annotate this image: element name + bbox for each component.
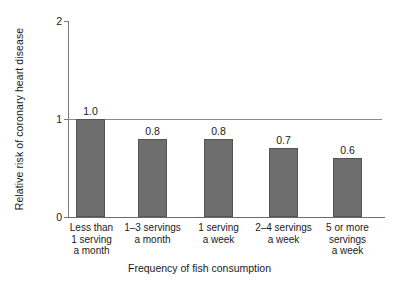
bar-value-label: 0.8 [211,125,226,137]
category-label-4: 5 or more servings a week [306,222,389,257]
y-tick-mark [64,119,68,120]
bar-value-label: 0.8 [145,125,160,137]
bar-1-serving-a-week: 0.8 [204,139,233,217]
y-axis-title: Relative risk of coronary heart disease [10,9,28,229]
bar-5-or-more-servings-a-week: 0.6 [333,158,362,217]
y-tick-label: 1 [56,113,62,125]
chart-figure: Relative risk of coronary heart disease … [0,0,399,284]
reference-line-at-one [68,119,382,120]
category-label-line: servings [306,234,389,246]
bar-less-than-1-serving-a-month: 1.0 [76,119,105,217]
bar-value-label: 0.7 [276,134,291,146]
bar-1-3-servings-a-month: 0.8 [138,139,167,217]
y-tick-label: 2 [56,15,62,27]
bar-2-4-servings-a-week: 0.7 [269,148,298,217]
y-tick-mark [64,21,68,22]
x-axis-line [68,217,385,218]
category-label-line: a month [50,245,133,257]
category-label-line: 5 or more [306,222,389,234]
bar-value-label: 0.6 [340,144,355,156]
plot-area: 2 1 0 1.0 0.8 0.8 0.7 0.6 Less than 1 se [68,21,385,217]
bar-value-label: 1.0 [83,105,98,117]
x-axis-title: Frequency of fish consumption [0,262,399,274]
category-label-line: a week [306,245,389,257]
y-tick-mark [64,217,68,218]
